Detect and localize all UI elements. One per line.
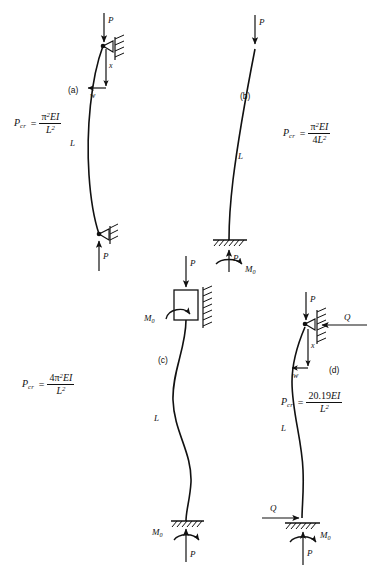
panel-d-formula-lhs: Pcr [281,397,293,408]
panel-a-formula-lhs: Pcr [14,118,26,129]
panel-b-column-curve [229,49,255,240]
panel-a-tag: (a) [68,86,78,95]
panel-a-formula-numerator: π2EI [39,112,61,124]
panel-d-length-label: L [281,424,286,433]
panel-a-bottom-load-label: P [103,252,109,261]
panel-c-formula: Pcr = 4π2EI L2 [22,373,74,396]
panel-b-tag: (b) [240,92,250,101]
panel-b-formula-equals: = [300,129,306,139]
panel-c-base-load-label: P [190,550,196,559]
panel-a-formula-equals: = [31,119,37,129]
panel-a-top-wall-hatching [115,35,124,57]
panel-b-base-load-label: P [233,254,239,263]
panel-c-length-label: L [154,414,159,423]
panel-a-top-pin-node [101,44,106,49]
panel-c-top-moment-arc [166,309,190,319]
panel-a-formula: Pcr = π2EI L2 [14,112,61,135]
panel-a-bottom-pin-support [99,229,109,240]
panel-b-formula-denominator: 4L2 [310,134,328,145]
panel-c-top-load-label: P [190,259,196,268]
panel-a-formula-denominator: L2 [44,124,57,135]
panel-d-base-hatching [286,523,316,529]
panel-d-diagram [262,292,367,565]
panel-d-formula-denominator: L2 [318,403,331,414]
panel-a-column-curve [88,46,103,234]
panel-c-base-moment-label: M0 [152,528,163,538]
panel-a-x-axis-label: x [109,62,113,70]
panel-c-top-moment-label: M0 [144,314,155,324]
panel-d-formula-numerator: 20.19EI [306,391,342,403]
panel-b-formula-fraction: π2EI 4L2 [308,122,330,145]
panel-d-formula-fraction: 20.19EI L2 [306,391,342,414]
buckling-modes-figure [0,0,383,571]
panel-c-tag: (c) [158,356,168,365]
panel-d-base-load-label: P [307,549,313,558]
panel-d-base-moment-label: M0 [320,531,331,541]
panel-d-tag: (d) [329,366,339,375]
panel-d-formula-equals: = [298,398,304,408]
panel-a-length-label: L [70,139,75,148]
panel-b-top-load-label: P [259,18,265,27]
panel-d-base-shear-label: Q [270,504,277,513]
panel-d-top-pin-support [305,319,315,330]
panel-d-top-shear-label: Q [344,313,351,322]
panel-b-base-hatching [214,240,244,246]
panel-d-x-axis-label: x [311,342,315,350]
panel-c-formula-fraction: 4π2EI L2 [47,373,74,396]
panel-b-formula-numerator: π2EI [308,122,330,134]
panel-c-sliding-block [174,290,198,320]
panel-a-diagram [88,13,124,271]
panel-d-top-load-label: P [310,295,316,304]
panel-c-base-hatching [172,521,202,527]
panel-c-top-wall-hatching [203,286,212,326]
panel-c-formula-equals: = [39,380,45,390]
panel-a-bottom-wall-hatching [110,224,118,240]
panel-c-formula-numerator: 4π2EI [47,373,74,385]
panel-b-diagram [213,15,255,272]
panel-a-top-load-label: P [108,16,114,25]
panel-b-base-moment-label: M0 [245,265,256,275]
panel-c-formula-denominator: L2 [54,385,67,396]
panel-c-diagram [166,256,212,562]
panel-c-column-curve [173,320,191,521]
panel-b-formula: Pcr = π2EI 4L2 [283,122,330,145]
panel-a-w-label: w [90,92,95,100]
panel-d-formula: Pcr = 20.19EI L2 [281,391,342,414]
panel-d-w-label: w [293,372,298,380]
panel-b-formula-lhs: Pcr [283,128,295,139]
panel-a-formula-fraction: π2EI L2 [39,112,61,135]
panel-c-formula-lhs: Pcr [22,379,34,390]
panel-b-length-label: L [238,152,243,161]
panel-d-column-curve [292,327,305,518]
